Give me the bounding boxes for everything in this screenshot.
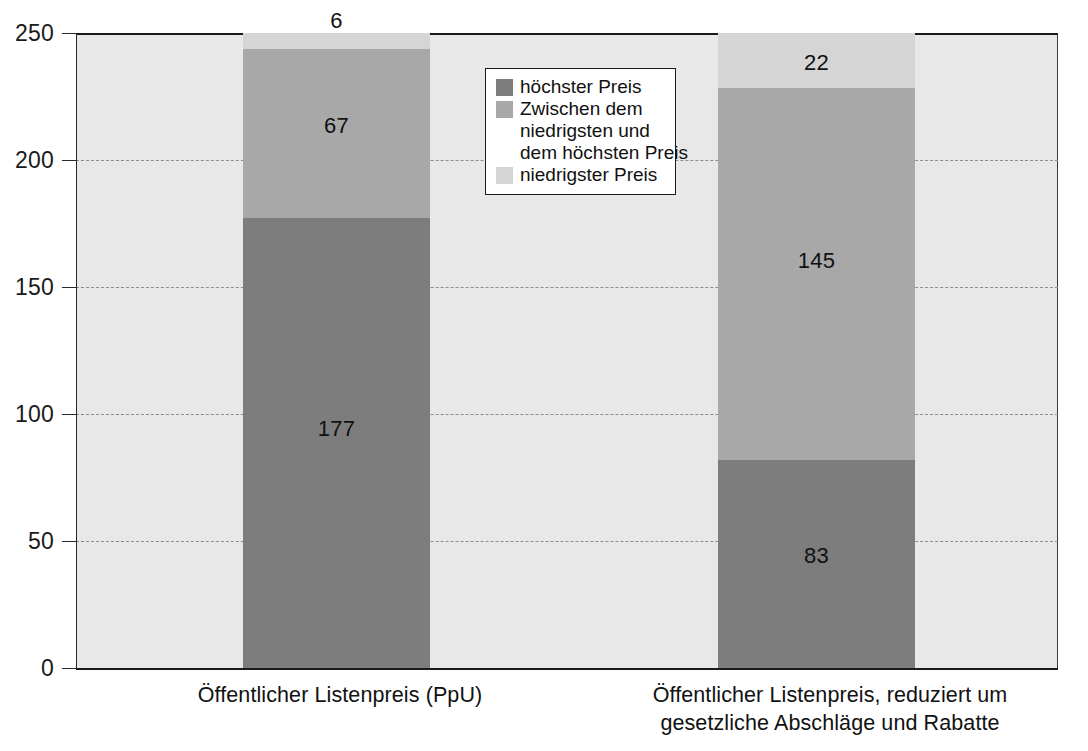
y-axis-label-50: 50 xyxy=(28,528,54,555)
x-axis-category-1-line1: Öffentlicher Listenpreis (PpU) xyxy=(180,682,500,710)
y-axis-label-250: 250 xyxy=(15,20,54,47)
x-axis-category-2-line2: gesetzliche Abschläge und Rabatte xyxy=(630,710,1030,738)
x-axis-category-2: Öffentlicher Listenpreis, reduziert um g… xyxy=(630,682,1030,737)
bar2-segment-zwischen[interactable]: 145 xyxy=(718,88,915,460)
y-tick-250 xyxy=(62,33,76,34)
y-tick-200 xyxy=(62,160,76,161)
stacked-bar-chart: 250 200 150 100 50 0 6 67 177 22 145 83 xyxy=(0,0,1088,751)
legend-swatch-spacer-2 xyxy=(496,145,513,162)
bar1-label-zwischen: 67 xyxy=(324,115,349,137)
legend-item-niedrigster-preis[interactable]: niedrigster Preis xyxy=(496,164,667,186)
y-tick-100 xyxy=(62,414,76,415)
bar1-segment-zwischen[interactable]: 67 xyxy=(243,49,430,218)
bar1-label-niedrigster-preis: 6 xyxy=(330,10,343,32)
legend-label-zwischen-line3: dem höchsten Preis xyxy=(520,142,688,164)
y-axis-label-200: 200 xyxy=(15,147,54,174)
y-axis-line xyxy=(76,33,77,668)
x-axis-category-2-line1: Öffentlicher Listenpreis, reduziert um xyxy=(630,682,1030,710)
legend-item-zwischen-cont1: niedrigsten und xyxy=(496,120,667,142)
bar1-segment-niedrigster-preis[interactable]: 6 xyxy=(243,33,430,49)
legend-swatch-niedrigster-preis xyxy=(496,167,513,184)
legend-label-hoechster-preis: höchster Preis xyxy=(520,76,641,98)
bar1-segment-hoechster-preis[interactable]: 177 xyxy=(243,218,430,668)
bar2-label-zwischen: 145 xyxy=(798,250,836,272)
bar2-label-niedrigster-preis: 22 xyxy=(804,52,829,74)
x-axis-category-1: Öffentlicher Listenpreis (PpU) xyxy=(180,682,500,710)
chart-legend: höchster Preis Zwischen dem niedrigsten … xyxy=(485,68,676,195)
y-axis-label-100: 100 xyxy=(15,401,54,428)
legend-item-zwischen-cont2: dem höchsten Preis xyxy=(496,142,667,164)
legend-label-zwischen-line2: niedrigsten und xyxy=(520,120,650,142)
bar2-segment-niedrigster-preis[interactable]: 22 xyxy=(718,33,915,88)
bar-group-oeffentlicher-listenpreis[interactable]: 6 67 177 xyxy=(243,33,430,668)
y-axis-label-150: 150 xyxy=(15,274,54,301)
y-tick-50 xyxy=(62,541,76,542)
x-axis-line xyxy=(76,668,1058,670)
legend-item-hoechster-preis[interactable]: höchster Preis xyxy=(496,76,667,98)
bar2-segment-hoechster-preis[interactable]: 83 xyxy=(718,460,915,668)
legend-label-zwischen-line1: Zwischen dem xyxy=(520,98,643,120)
legend-swatch-zwischen xyxy=(496,101,513,118)
legend-item-zwischen[interactable]: Zwischen dem xyxy=(496,98,667,120)
legend-label-niedrigster-preis: niedrigster Preis xyxy=(520,164,657,186)
bar1-label-hoechster-preis: 177 xyxy=(318,418,356,440)
y-axis-label-0: 0 xyxy=(41,655,54,682)
legend-swatch-spacer-1 xyxy=(496,123,513,140)
y-tick-150 xyxy=(62,287,76,288)
legend-swatch-hoechster-preis xyxy=(496,79,513,96)
bar2-label-hoechster-preis: 83 xyxy=(804,545,829,567)
bar-group-listenpreis-reduziert[interactable]: 22 145 83 xyxy=(718,33,915,668)
y-tick-0 xyxy=(62,668,76,669)
